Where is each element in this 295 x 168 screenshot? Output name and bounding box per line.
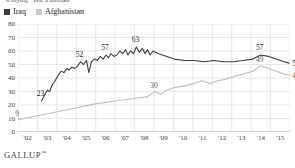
legend-item-afghanistan: Afghanistan bbox=[36, 7, 84, 16]
data-point-label: 49 bbox=[256, 54, 264, 63]
legend-label-afghanistan: Afghanistan bbox=[45, 7, 84, 16]
legend-swatch-afghanistan bbox=[36, 9, 42, 15]
legend-item-iraq: Iraq bbox=[4, 7, 26, 16]
x-axis-tick-label: '12 bbox=[218, 134, 226, 142]
x-axis-tick-label: '13 bbox=[237, 134, 245, 142]
legend-label-iraq: Iraq bbox=[13, 7, 26, 16]
x-axis-tick-label: '08 bbox=[140, 134, 148, 142]
y-axis-tick-label: 10 bbox=[8, 115, 15, 123]
data-point-label: 51 bbox=[292, 59, 295, 68]
x-axis-tick-label: '06 bbox=[101, 134, 109, 142]
y-axis-tick-label: 20 bbox=[8, 101, 15, 109]
data-point-label: 42 bbox=[292, 71, 295, 80]
x-axis-tick-label: '09 bbox=[160, 134, 168, 142]
x-axis-tick-label: '15 bbox=[276, 134, 284, 142]
x-axis-tick-label: '03 bbox=[43, 134, 51, 142]
data-point-label: 9 bbox=[15, 108, 19, 117]
x-axis-tick-label: '04 bbox=[62, 134, 70, 142]
plot-area: 2352576357519304942 bbox=[18, 24, 290, 132]
data-point-label: 52 bbox=[76, 49, 84, 58]
y-axis-tick-label: 50 bbox=[8, 61, 15, 69]
x-axis-tick-label: '10 bbox=[179, 134, 187, 142]
x-axis-tick-label: '11 bbox=[199, 134, 207, 142]
data-point-label: 63 bbox=[132, 34, 140, 43]
y-axis-tick-label: 70 bbox=[8, 34, 15, 42]
y-axis-tick-label: 0 bbox=[12, 128, 16, 136]
data-point-label: 57 bbox=[256, 43, 264, 52]
y-axis-tick-label: 80 bbox=[8, 20, 15, 28]
data-point-label: 30 bbox=[150, 80, 158, 89]
chart-caption: % saying "Yes, a mistake" bbox=[4, 0, 72, 3]
chart-svg bbox=[18, 24, 290, 132]
y-axis: 01020304050607080 bbox=[0, 24, 16, 132]
y-axis-tick-label: 30 bbox=[8, 88, 15, 96]
x-axis: '02'03'04'05'06'07'08'09'10'11'12'13'14'… bbox=[18, 134, 290, 146]
gallup-wordmark: GALLUP bbox=[4, 150, 41, 160]
data-point-label: 23 bbox=[37, 88, 45, 97]
x-axis-tick-label: '07 bbox=[121, 134, 129, 142]
x-axis-tick-label: '05 bbox=[82, 134, 90, 142]
y-axis-tick-label: 60 bbox=[8, 47, 15, 55]
chart-legend: Iraq Afghanistan bbox=[4, 7, 84, 16]
x-axis-tick-label: '14 bbox=[257, 134, 265, 142]
x-axis-tick-label: '02 bbox=[24, 134, 32, 142]
trademark-mark: ™ bbox=[41, 150, 47, 155]
gallup-logo: GALLUP™ bbox=[4, 150, 47, 160]
data-point-label: 57 bbox=[101, 43, 109, 52]
legend-swatch-iraq bbox=[4, 9, 10, 15]
chart-container: % saying "Yes, a mistake" Iraq Afghanist… bbox=[0, 0, 295, 168]
y-axis-tick-label: 40 bbox=[8, 74, 15, 82]
